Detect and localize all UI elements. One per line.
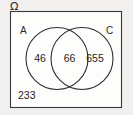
region-count-intersection: 66: [64, 52, 76, 64]
venn-diagram-figure: Ω A C 46 66 655 233: [0, 0, 133, 115]
set-a-label: A: [20, 25, 27, 36]
region-count-a-only: 46: [34, 52, 46, 64]
region-count-c-only: 655: [86, 52, 104, 64]
region-count-outside: 233: [18, 89, 36, 101]
set-c-label: C: [106, 25, 113, 36]
